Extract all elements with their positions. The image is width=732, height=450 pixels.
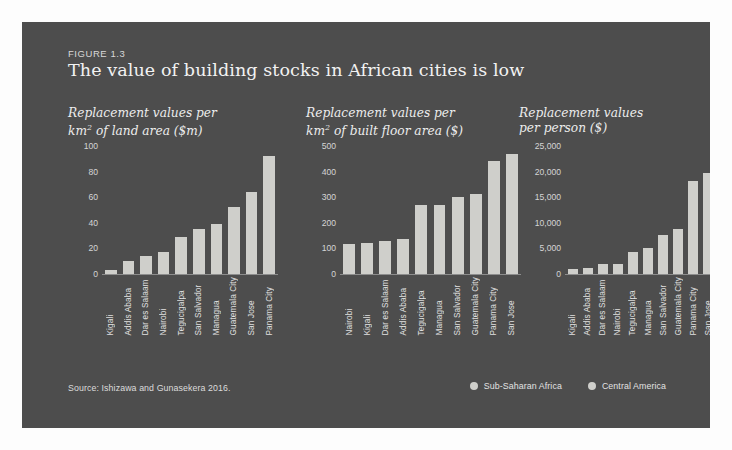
x-tick-label: Guatemala City xyxy=(229,277,238,336)
chart-per-person: Replacement valuesper person ($) 05,0001… xyxy=(519,106,710,376)
source-note: Source: Ishizawa and Gunasekera 2016. xyxy=(68,383,231,393)
axis-baseline xyxy=(340,274,521,275)
bar xyxy=(343,244,355,274)
figure-page: FIGURE 1.3 The value of building stocks … xyxy=(0,0,732,450)
bar-series xyxy=(102,146,278,274)
x-tick-label: Kigali xyxy=(363,277,372,336)
category-column: Tegucigalpa xyxy=(625,277,640,336)
bar xyxy=(175,237,187,274)
x-axis-categories: KigaliAddis AbabaDar es SalaamNairobiTeg… xyxy=(102,277,278,336)
bar-column xyxy=(358,146,376,274)
bar xyxy=(470,194,482,274)
y-tick-label: 60 xyxy=(88,192,98,202)
bar-column xyxy=(686,146,701,274)
category-column: Panama City xyxy=(686,277,701,336)
category-column: Guatemala City xyxy=(467,277,485,336)
bar-column xyxy=(394,146,412,274)
bar xyxy=(658,235,668,274)
bar-column xyxy=(625,146,640,274)
legend-item: Sub-Saharan Africa xyxy=(470,381,562,391)
figure-number: FIGURE 1.3 xyxy=(68,48,125,59)
x-tick-label: Guatemala City xyxy=(471,277,480,336)
x-tick-label: Addis Ababa xyxy=(399,277,408,336)
x-tick-label: Nairobi xyxy=(345,277,354,336)
y-tick-label: 400 xyxy=(322,167,336,177)
bar-column xyxy=(225,146,243,274)
x-tick-label: San Jose xyxy=(507,277,516,336)
y-tick-label: 0 xyxy=(331,269,336,279)
bar xyxy=(415,205,427,274)
bar xyxy=(211,224,223,274)
y-tick-label: 200 xyxy=(322,218,336,228)
bar-column xyxy=(449,146,467,274)
plot-area xyxy=(102,146,278,274)
x-tick-label: Addis Ababa xyxy=(124,277,133,336)
bar-column xyxy=(208,146,226,274)
x-tick-label: Nairobi xyxy=(159,277,168,336)
legend-dot-icon xyxy=(588,382,596,390)
bar-series xyxy=(340,146,521,274)
chart-built-floor-area: Replacement values perkm2 of built floor… xyxy=(306,106,521,376)
category-column: Dar es Salaam xyxy=(376,277,394,336)
bar xyxy=(613,264,623,274)
y-tick-label: 20 xyxy=(88,243,98,253)
bar xyxy=(140,256,152,274)
y-tick-label: 0 xyxy=(556,269,561,279)
category-column: Managua xyxy=(640,277,655,336)
bar-series xyxy=(565,146,710,274)
bar xyxy=(361,243,373,274)
category-column: Tegucigalpa xyxy=(412,277,430,336)
legend-item: Central America xyxy=(588,381,666,391)
category-column: Managua xyxy=(430,277,448,336)
x-tick-label: Panama City xyxy=(689,277,698,336)
x-tick-label: Tegucigalpa xyxy=(177,277,186,336)
category-column: Tegucigalpa xyxy=(172,277,190,336)
bar-column xyxy=(640,146,655,274)
figure-title: The value of building stocks in African … xyxy=(68,60,524,80)
category-column: San Salvador xyxy=(449,277,467,336)
chart-land-area: Replacement values perkm2 of land area (… xyxy=(68,106,278,376)
category-column: Kigali xyxy=(565,277,580,336)
bar xyxy=(488,161,500,274)
bar-column xyxy=(243,146,261,274)
plot-area xyxy=(340,146,521,274)
bar xyxy=(703,173,710,274)
category-column: Addis Ababa xyxy=(580,277,595,336)
category-column: Panama City xyxy=(485,277,503,336)
bar-column xyxy=(485,146,503,274)
bar-column xyxy=(580,146,595,274)
bar-column xyxy=(610,146,625,274)
category-column: Kigali xyxy=(102,277,120,336)
bar-column xyxy=(340,146,358,274)
bar xyxy=(598,264,608,274)
category-column: San Jose xyxy=(701,277,710,336)
y-tick-label: 20,000 xyxy=(535,167,561,177)
bar-column xyxy=(190,146,208,274)
category-column: Dar es Salaam xyxy=(137,277,155,336)
x-tick-label: Dar es Salaam xyxy=(141,277,150,336)
bar-column xyxy=(172,146,190,274)
x-axis-categories: NairobiKigaliDar es SalaamAddis AbabaTeg… xyxy=(340,277,521,336)
bar-column xyxy=(701,146,710,274)
bar-column xyxy=(671,146,686,274)
y-tick-label: 80 xyxy=(88,167,98,177)
bar-column xyxy=(260,146,278,274)
bar xyxy=(688,181,698,274)
bar xyxy=(643,248,653,274)
y-tick-label: 300 xyxy=(322,192,336,202)
figure-panel: FIGURE 1.3 The value of building stocks … xyxy=(22,22,710,428)
x-tick-label: Managua xyxy=(644,277,653,336)
category-column: Panama City xyxy=(260,277,278,336)
y-tick-label: 100 xyxy=(322,243,336,253)
axis-baseline xyxy=(102,274,278,275)
legend-label: Sub-Saharan Africa xyxy=(484,381,562,391)
bar xyxy=(379,241,391,274)
bar xyxy=(434,205,446,274)
x-tick-label: Managua xyxy=(435,277,444,336)
category-column: Nairobi xyxy=(610,277,625,336)
category-column: San Salvador xyxy=(656,277,671,336)
x-tick-label: Guatemala City xyxy=(674,277,683,336)
bar-column xyxy=(155,146,173,274)
axis-baseline xyxy=(565,274,710,275)
bar-column xyxy=(120,146,138,274)
